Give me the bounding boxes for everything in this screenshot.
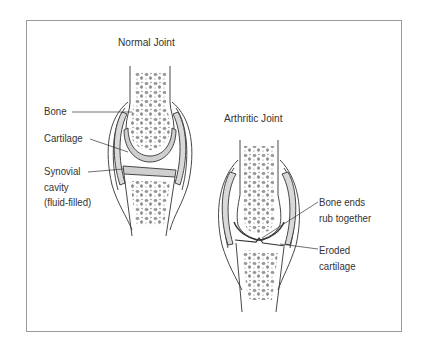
label-cartilage: Cartilage [44,132,83,145]
label-bone-ends-line2: rub together [319,212,371,225]
arthritic-joint-title: Arthritic Joint [224,112,282,125]
label-bone-ends-line1: Bone ends [319,196,365,209]
label-synovial-line1: Synovial [44,165,81,178]
label-eroded-line2: cartilage [319,260,356,273]
arthritic-joint-drawing [219,140,300,312]
normal-joint-drawing [108,66,192,236]
normal-joint-title: Normal Joint [118,36,175,49]
label-synovial-line3: (fluid-filled) [44,196,91,209]
label-eroded-line1: Eroded [319,244,350,257]
label-bone: Bone [44,105,67,118]
label-synovial-line2: cavity [44,181,69,194]
